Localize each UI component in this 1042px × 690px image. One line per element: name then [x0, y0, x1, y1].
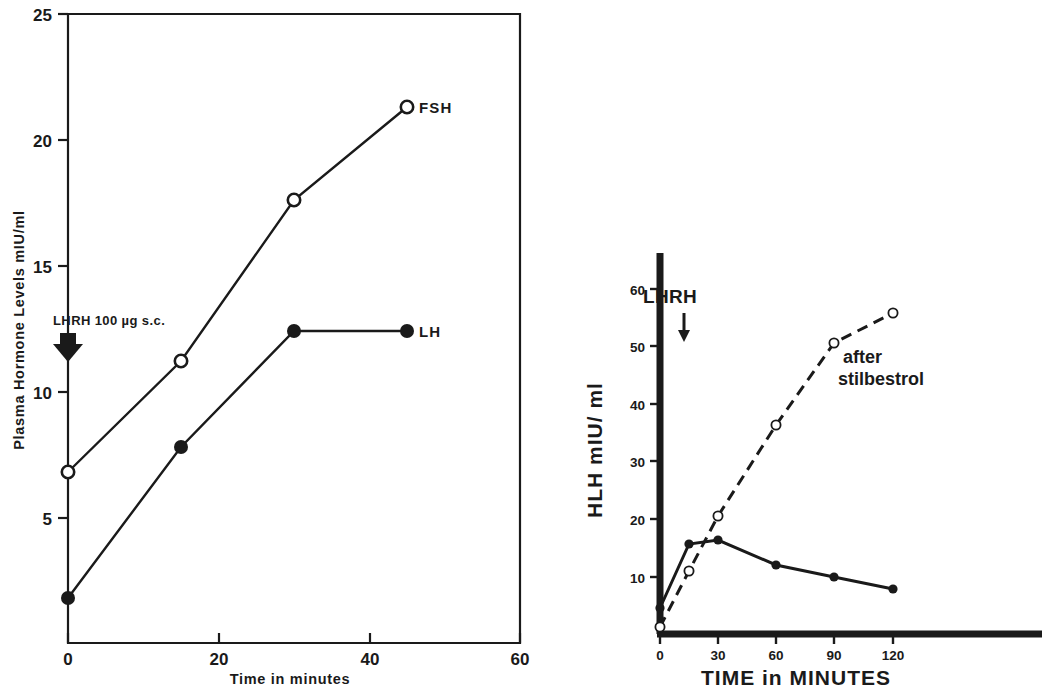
left-ytick-label-25: 25 [33, 6, 52, 25]
chart-panel-right: 60 50 40 30 20 10 0 30 60 90 120 HLH mIU… [560, 0, 1042, 690]
left-x-axis-title: Time in minutes [230, 671, 351, 687]
right-ytick-label-30: 30 [630, 455, 645, 470]
right-stilbestrol-label-line2: stilbestrol [838, 369, 924, 389]
right-stilbestrol-point-5 [888, 308, 897, 317]
down-arrow-thin-icon [678, 313, 690, 342]
left-ytick-label-5: 5 [43, 510, 52, 529]
right-control-point-4 [829, 572, 838, 581]
right-xtick-label-120: 120 [882, 648, 905, 663]
right-stilbestrol-point-0 [655, 622, 664, 631]
right-ytick-label-50: 50 [630, 340, 645, 355]
left-y-axis-ticks [58, 14, 68, 518]
left-lh-point-2 [287, 324, 301, 338]
left-fsh-point-0 [62, 466, 74, 478]
left-series-label-fsh: FSH [419, 99, 453, 116]
right-stilbestrol-point-3 [771, 420, 780, 429]
left-xtick-label-0: 0 [63, 650, 72, 669]
right-axis-frame [657, 253, 1042, 634]
right-stilbestrol-point-1 [684, 566, 693, 575]
left-xtick-label-20: 20 [210, 650, 229, 669]
left-lhrh-annotation-text: LHRH 100 µg s.c. [53, 313, 165, 328]
right-control-point-2 [713, 535, 722, 544]
right-xtick-label-30: 30 [710, 648, 725, 663]
left-x-axis-ticks [68, 633, 520, 643]
right-control-point-3 [771, 560, 780, 569]
left-lh-point-3 [400, 324, 414, 338]
right-ytick-label-10: 10 [630, 571, 645, 586]
left-fsh-point-2 [288, 194, 300, 206]
right-xtick-label-60: 60 [768, 648, 783, 663]
right-stilbestrol-point-2 [713, 511, 722, 520]
left-series-label-lh: LH [419, 323, 441, 340]
right-lhrh-annotation-text: LHRH [643, 286, 697, 307]
right-chart-svg: 60 50 40 30 20 10 0 30 60 90 120 HLH mIU… [560, 0, 1042, 690]
right-stilbestrol-label-line1: after [843, 347, 882, 367]
right-ytick-label-20: 20 [630, 513, 645, 528]
left-series-fsh [62, 101, 413, 478]
left-fsh-point-1 [175, 355, 187, 367]
right-x-axis-title: TIME in MINUTES [701, 666, 891, 689]
left-series-lh [61, 324, 414, 605]
left-xtick-label-40: 40 [361, 650, 380, 669]
chart-panel-left: 25 20 15 10 5 0 20 40 60 Plasma Hormone … [0, 0, 560, 690]
left-ytick-label-20: 20 [33, 132, 52, 151]
right-xtick-label-0: 0 [656, 648, 664, 663]
right-control-point-0 [655, 603, 664, 612]
left-lh-point-1 [174, 440, 188, 454]
right-xtick-label-90: 90 [826, 648, 841, 663]
right-stilbestrol-point-4 [829, 338, 838, 347]
right-control-point-5 [888, 584, 897, 593]
right-y-axis-title: HLH mIU/ ml [583, 382, 606, 518]
left-lh-point-0 [61, 591, 75, 605]
left-xtick-label-60: 60 [511, 650, 530, 669]
left-fsh-point-3 [401, 101, 413, 113]
left-chart-svg: 25 20 15 10 5 0 20 40 60 Plasma Hormone … [0, 0, 560, 690]
left-ytick-label-10: 10 [33, 384, 52, 403]
down-arrow-icon [53, 333, 83, 362]
left-y-axis-title: Plasma Hormone Levels mIU/ml [11, 210, 27, 450]
right-ytick-label-40: 40 [630, 398, 645, 413]
figure-root: 25 20 15 10 5 0 20 40 60 Plasma Hormone … [0, 0, 1042, 690]
left-ytick-label-15: 15 [33, 258, 52, 277]
right-control-point-1 [684, 539, 693, 548]
